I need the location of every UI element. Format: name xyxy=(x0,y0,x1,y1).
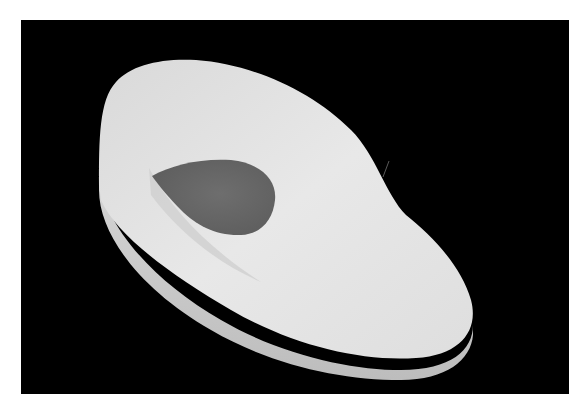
reflection-streak xyxy=(383,161,389,177)
insole-top-surface xyxy=(99,60,473,359)
insole-illustration xyxy=(21,20,569,394)
product-photo: White silicone insole with dark grey tea… xyxy=(21,20,569,394)
